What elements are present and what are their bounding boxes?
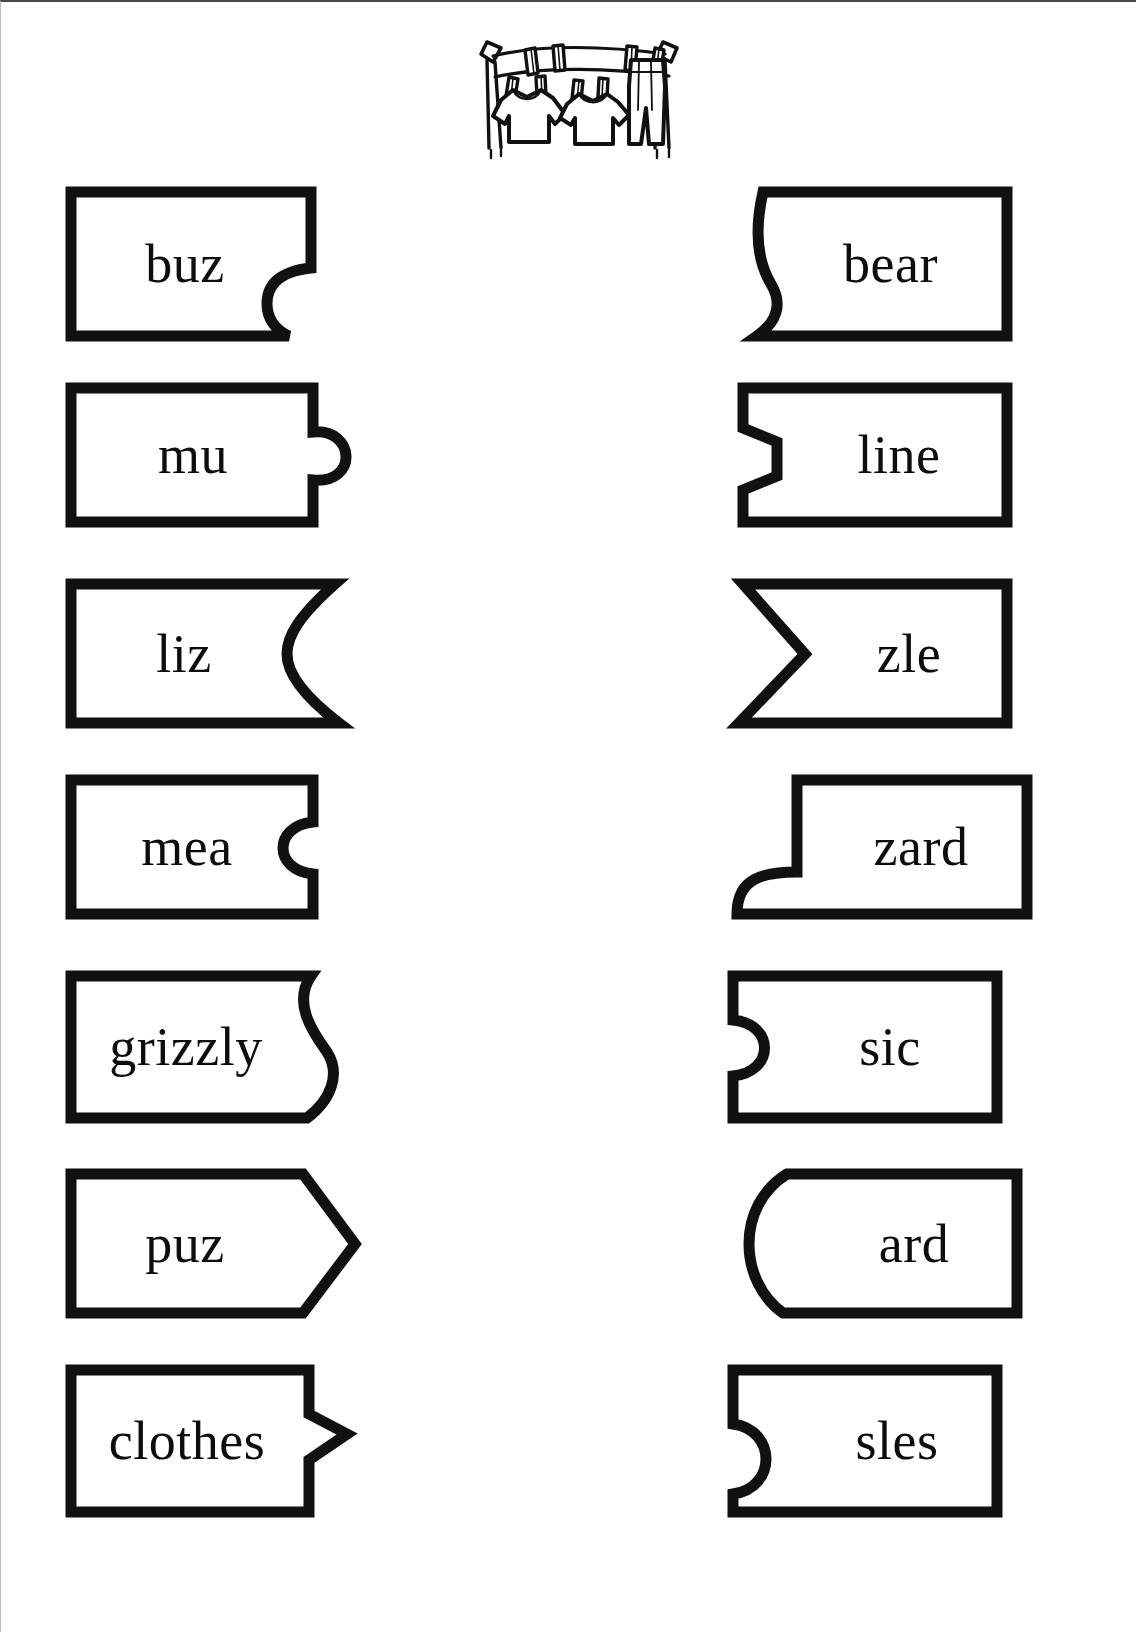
piece-shape-tab — [63, 380, 363, 530]
puzzle-piece-right-3[interactable]: zle — [725, 576, 1015, 731]
piece-shape-chevron-point — [725, 576, 1015, 731]
puzzle-piece-left-1[interactable]: buz — [63, 184, 333, 344]
piece-shape-angular-tab — [63, 1362, 363, 1520]
puzzle-row: liz zle — [1, 576, 1136, 766]
piece-shape-step-tab — [725, 772, 1035, 922]
puzzle-piece-right-5[interactable]: sic — [725, 968, 1005, 1126]
puzzle-piece-left-6[interactable]: puz — [63, 1166, 363, 1321]
piece-shape-s-curve-out — [63, 968, 353, 1126]
puzzle-row: buz bear — [1, 184, 1136, 374]
clothesline-icon — [431, 24, 707, 172]
puzzle-piece-left-7[interactable]: clothes — [63, 1362, 363, 1520]
puzzle-row: clothes sles — [1, 1362, 1136, 1552]
puzzle-piece-right-1[interactable]: bear — [725, 184, 1015, 344]
piece-shape-socket — [63, 772, 343, 922]
puzzle-row: mea zard — [1, 772, 1136, 962]
puzzle-row: puz ard — [1, 1166, 1136, 1356]
puzzle-piece-left-5[interactable]: grizzly — [63, 968, 353, 1126]
puzzle-piece-right-6[interactable]: ard — [725, 1166, 1025, 1321]
puzzle-row: grizzly sic — [1, 968, 1136, 1158]
puzzle-piece-grid: buz bear mu line — [1, 184, 1136, 1584]
puzzle-piece-left-3[interactable]: liz — [63, 576, 353, 731]
piece-shape-round-point — [725, 1166, 1025, 1321]
piece-shape-arrow — [63, 1166, 363, 1321]
puzzle-piece-right-2[interactable]: line — [725, 380, 1015, 530]
piece-shape-zigzag — [725, 380, 1015, 530]
piece-shape-socket-left — [725, 968, 1005, 1126]
piece-shape-s-curve — [725, 184, 1015, 344]
puzzle-piece-right-7[interactable]: sles — [725, 1362, 1005, 1520]
puzzle-piece-left-2[interactable]: mu — [63, 380, 363, 530]
piece-shape-socket-left-lower — [725, 1362, 1005, 1520]
piece-shape-chevron-in — [63, 576, 353, 731]
piece-shape-notch — [63, 184, 333, 344]
worksheet-page: buz bear mu line — [0, 0, 1136, 1632]
clothesline-clipart-container — [1, 24, 1136, 174]
puzzle-piece-left-4[interactable]: mea — [63, 772, 343, 922]
puzzle-row: mu line — [1, 380, 1136, 570]
puzzle-piece-right-4[interactable]: zard — [725, 772, 1035, 922]
